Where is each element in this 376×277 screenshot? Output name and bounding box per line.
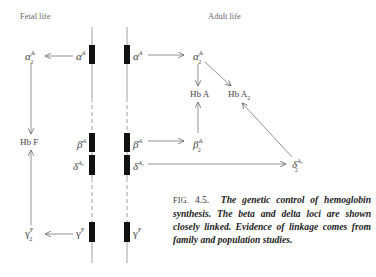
gene-bar-beta-adult — [124, 133, 130, 152]
gene-label-delta-fetal: δA₂ — [73, 160, 84, 172]
gene-bar-beta-fetal — [89, 133, 95, 152]
chain-beta2-adult: βA2 — [192, 138, 203, 153]
gene-bar-gamma-adult — [124, 222, 130, 242]
chain-alpha2-adult: αA2 — [193, 50, 204, 65]
gene-label-alpha-fetal: αA — [76, 50, 86, 62]
heading-fetal-life: Fetal life — [20, 11, 51, 21]
gene-bar-gamma-fetal — [89, 222, 95, 242]
figure-caption: FIG. 4.5. The genetic control of hemoglo… — [173, 193, 371, 246]
chain-gamma2-fetal: γF2 — [24, 227, 34, 242]
chromosome-adult — [124, 27, 130, 263]
gene-label-beta-fetal: βA — [76, 138, 86, 150]
chain-delta2-adult: δA₂2 — [292, 158, 303, 173]
chromosome-fetal — [89, 27, 95, 263]
figure-label: FIG. — [173, 196, 189, 205]
arrow-delta2-to-hba2 — [242, 103, 292, 157]
heading-adult-life: Adult life — [208, 11, 241, 21]
gene-label-gamma-adult: γF — [132, 227, 142, 239]
gene-label-alpha-adult: αA — [133, 50, 143, 62]
gene-bar-alpha-fetal — [89, 45, 95, 64]
hemoglobin-hba: Hb A — [190, 89, 210, 99]
gene-label-gamma-fetal: γF — [75, 227, 85, 239]
chain-alpha2-fetal: αA2 — [25, 50, 36, 65]
gene-bar-delta-fetal — [89, 155, 95, 175]
gene-label-delta-adult: δA₂ — [133, 160, 144, 172]
gene-bar-alpha-adult — [124, 45, 130, 64]
figure-number: 4.5. — [195, 195, 209, 205]
hemoglobin-hba2: Hb A2 — [228, 89, 250, 101]
hemoglobin-hbf: Hb F — [20, 137, 38, 147]
gene-label-beta-adult: βA — [132, 138, 142, 150]
gene-bar-delta-adult — [124, 155, 130, 175]
arrow-alpha2-to-hba2 — [205, 62, 231, 86]
